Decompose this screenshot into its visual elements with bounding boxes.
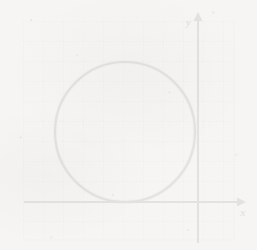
coordinate-plot (0, 0, 257, 250)
y-axis-label: y (186, 17, 191, 28)
y-axis-arrowhead (194, 12, 203, 21)
x-axis-label: x (240, 207, 246, 218)
figure-canvas: y x (0, 0, 257, 250)
